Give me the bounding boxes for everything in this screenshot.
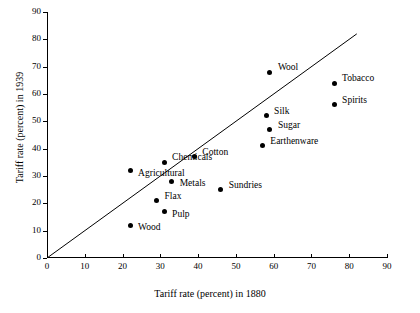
- y-tick-mark: [43, 149, 47, 150]
- data-point: [162, 160, 167, 165]
- x-tick-mark: [387, 254, 388, 258]
- data-point-label: Tobacco: [342, 73, 374, 83]
- x-tick-mark: [160, 254, 161, 258]
- y-tick-mark: [43, 176, 47, 177]
- x-tick-mark: [85, 254, 86, 258]
- x-tick-label: 90: [375, 261, 399, 271]
- chart-figure: 0102030405060708090 0102030405060708090 …: [0, 0, 420, 313]
- x-tick-mark: [123, 254, 124, 258]
- x-tick-label: 80: [337, 261, 361, 271]
- data-point: [218, 187, 223, 192]
- data-point: [332, 102, 337, 107]
- x-tick-mark: [349, 254, 350, 258]
- data-point-label: Spirits: [342, 95, 367, 105]
- plot-area: 0102030405060708090 0102030405060708090 …: [47, 12, 387, 258]
- data-point-label: Metals: [180, 178, 206, 188]
- x-tick-label: 0: [35, 261, 59, 271]
- x-axis-line: [47, 257, 387, 258]
- data-point: [162, 209, 167, 214]
- data-point-label: Sundries: [229, 180, 262, 190]
- x-tick-mark: [47, 254, 48, 258]
- y-tick-mark: [43, 67, 47, 68]
- y-tick-mark: [43, 121, 47, 122]
- y-tick-mark: [43, 258, 47, 259]
- data-point: [267, 70, 272, 75]
- reference-line: [47, 12, 387, 258]
- data-point-label: Wood: [138, 222, 160, 232]
- data-point-label: Pulp: [172, 209, 189, 219]
- y-axis-line: [47, 12, 48, 258]
- x-tick-mark: [311, 254, 312, 258]
- y-tick-mark: [43, 39, 47, 40]
- data-point: [128, 168, 133, 173]
- x-tick-label: 10: [73, 261, 97, 271]
- x-axis-label: Tariff rate (percent) in 1880: [0, 288, 420, 299]
- data-point: [260, 143, 265, 148]
- data-point-label: Earthenware: [270, 136, 318, 146]
- data-point: [264, 113, 269, 118]
- data-point: [154, 198, 159, 203]
- data-point-label: Silk: [274, 106, 289, 116]
- x-tick-label: 20: [111, 261, 135, 271]
- x-tick-label: 50: [224, 261, 248, 271]
- y-tick-mark: [43, 12, 47, 13]
- x-tick-mark: [198, 254, 199, 258]
- x-tick-label: 70: [299, 261, 323, 271]
- data-point-label: Flax: [165, 191, 182, 201]
- data-point-label: Wool: [278, 62, 298, 72]
- data-point-label: Agricultural: [138, 168, 184, 178]
- data-point: [169, 179, 174, 184]
- data-point-label: Sugar: [278, 120, 300, 130]
- y-tick-mark: [43, 94, 47, 95]
- y-tick-label: 0: [21, 252, 41, 262]
- x-tick-label: 60: [262, 261, 286, 271]
- data-point: [128, 223, 133, 228]
- x-tick-mark: [236, 254, 237, 258]
- data-point: [267, 127, 272, 132]
- y-tick-mark: [43, 231, 47, 232]
- x-tick-mark: [274, 254, 275, 258]
- y-axis-label: Tariff rate (percent) in 1939: [14, 3, 25, 253]
- data-point: [332, 81, 337, 86]
- y-tick-mark: [43, 203, 47, 204]
- data-point-label: Chemicals: [172, 152, 212, 162]
- x-tick-label: 40: [186, 261, 210, 271]
- x-tick-label: 30: [148, 261, 172, 271]
